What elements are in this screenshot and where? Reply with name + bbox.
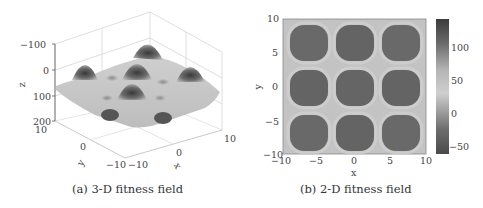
- x-tick: 0: [176, 148, 182, 158]
- y-axis-label: y: [253, 84, 263, 89]
- colorbar-tick: 50: [451, 76, 463, 86]
- x-tick: 10: [224, 134, 236, 144]
- panel-3d-surface: −100 0 100 200 z 10 0 −10 y −10 0 10 x (…: [0, 0, 240, 208]
- peak: [72, 65, 98, 80]
- z-axis-label: z: [17, 82, 27, 87]
- y-tick: 5: [272, 48, 278, 58]
- colorbar-tick: −50: [449, 142, 469, 152]
- y-tick: 10: [35, 125, 47, 135]
- peak: [133, 44, 163, 60]
- caption-a: (a) 3-D fitness field: [72, 182, 183, 196]
- z-tick: 100: [33, 92, 51, 102]
- colorbar-tick: 0: [451, 109, 457, 119]
- x-tick: −10: [271, 156, 291, 166]
- z-tick: −100: [20, 40, 46, 50]
- colorbar-tick: 100: [451, 43, 469, 53]
- x-axis-label: x: [351, 168, 356, 178]
- x-tick: −5: [309, 156, 323, 166]
- y-tick: 0: [272, 82, 278, 92]
- panel-2d-heatmap: 10 5 0 −5 −10 y −10 −5 0 5 10 x 100 50 0…: [240, 0, 483, 208]
- y-tick: −10: [106, 160, 126, 170]
- heatmap-plot: [240, 0, 483, 208]
- colorbar: [436, 19, 449, 154]
- z-axis: [52, 44, 55, 121]
- y-tick: 0: [80, 142, 86, 152]
- x-tick: −10: [128, 160, 148, 170]
- x-tick: 0: [351, 156, 357, 166]
- y-tick: −5: [265, 117, 279, 127]
- y-tick: 10: [267, 14, 279, 24]
- caption-b: (b) 2-D fitness field: [300, 182, 412, 196]
- surface-3d-plot: [0, 0, 240, 208]
- x-tick: 5: [387, 156, 393, 166]
- x-tick: 10: [420, 156, 432, 166]
- heatmap-blobs: [290, 25, 420, 151]
- z-tick: 0: [43, 66, 49, 76]
